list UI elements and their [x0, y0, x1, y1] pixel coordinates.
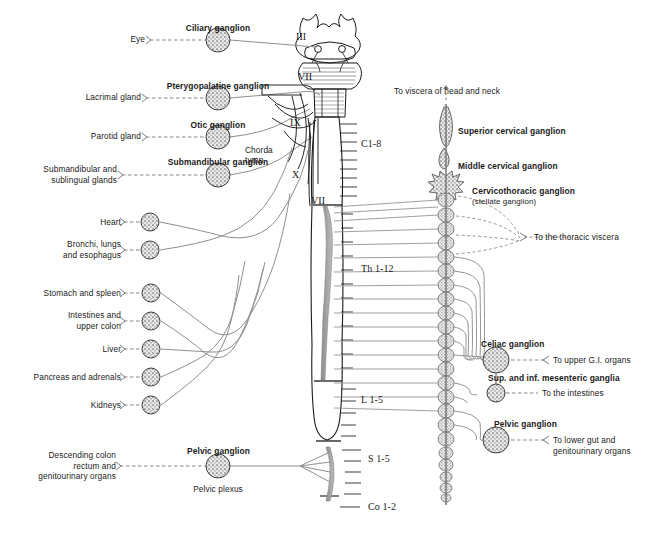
- celiac-ganglion-circle: [483, 347, 509, 373]
- target-leader-dashes: [120, 40, 206, 466]
- cranial-nerve-vii-lower-numeral: VII: [311, 196, 325, 207]
- cranial-nerve-x-numeral: X: [292, 170, 299, 181]
- chorda-tympani-label-line1: Chorda: [245, 145, 273, 156]
- kidneys-label: Kidneys: [52, 400, 121, 411]
- mesenteric-ganglia-circle: [487, 384, 505, 402]
- to-lower-gut-genitourinary-label: To lower gut and genitourinary organs: [553, 435, 631, 456]
- middle-cervical-ganglion-label: Middle cervical ganglion: [458, 161, 558, 172]
- otic-ganglion-label: Otic ganglion: [158, 120, 278, 131]
- pterygopalatine-ganglion-label: Pterygopalatine ganglion: [130, 81, 306, 92]
- pelvic-ganglion-label: Pelvic ganglion: [160, 446, 277, 457]
- segment-label-coccygeal: Co 1-2: [368, 502, 396, 513]
- midbrain-outline: [305, 42, 356, 63]
- vagus-nerve-fibers: [160, 148, 308, 405]
- segment-label-lumbar: L 1-5: [361, 395, 383, 406]
- cranial-parasympathetic-fibers: [230, 40, 320, 175]
- pelvic-parasympathetic-fibers: [230, 452, 330, 482]
- parasympathetic-ganglion-circles: [206, 28, 230, 478]
- intermediolateral-columns: [321, 206, 334, 501]
- sacral-gray-column: [326, 447, 334, 501]
- sympathetic-pelvic-ganglion-label: Pelvic ganglion: [494, 419, 557, 430]
- sympathetic-pelvic-ganglion-circle: [483, 427, 509, 453]
- chorda-tympani-label-line2: tymp.: [245, 155, 266, 166]
- celiac-ganglion-label: Celiac ganglion: [481, 339, 544, 350]
- cranial-nerve-ix-numeral: IX: [290, 118, 301, 129]
- pelvic-plexus-label: Pelvic plexus: [168, 484, 268, 495]
- white-rami-connections: [334, 200, 438, 411]
- kidneys-circle: [142, 396, 160, 414]
- intestines-upper-colon-label: Intestines and upper colon: [30, 310, 121, 331]
- autonomic-nervous-system-diagram: Ciliary ganglion Eye Pterygopalatine gan…: [0, 0, 662, 537]
- stomach-circle: [142, 284, 160, 302]
- segment-label-sacral: S 1-5: [368, 454, 390, 465]
- edinger-westphal-nucleus-right: [339, 46, 346, 53]
- to-upper-gi-organs-label: To upper G.I. organs: [553, 355, 631, 366]
- to-thoracic-viscera-label: To the thoracic viscera: [534, 232, 619, 243]
- liver-circle: [142, 340, 160, 358]
- pancreas-adrenals-label: Pancreas and adrenals: [14, 372, 121, 383]
- brainstem-group: [296, 14, 362, 117]
- ciliary-ganglion-label: Ciliary ganglion: [148, 23, 288, 34]
- descending-colon-rectum-genitourinary-label: Descending colon rectum and genitourinar…: [10, 450, 116, 482]
- pancreas-circle: [142, 368, 160, 386]
- heart-circle: [141, 213, 159, 231]
- submandibular-sublingual-glands-label: Submandibular and sublingual glands: [22, 164, 117, 185]
- segment-label-cervical: C1-8: [361, 139, 381, 150]
- sympathetic-chain: [428, 85, 464, 505]
- cranial-nerve-iii-numeral: III: [296, 32, 306, 43]
- intestines-circle: [142, 312, 160, 330]
- parotid-gland-label: Parotid gland: [44, 131, 141, 142]
- thoracolumbar-gray-column: [321, 206, 332, 380]
- eye-label: Eye: [60, 34, 145, 45]
- superior-cervical-ganglion-label: Superior cervical ganglion: [458, 126, 566, 137]
- to-viscera-head-neck-label: To viscera of head and neck: [394, 86, 500, 97]
- middle-cervical-ganglion: [439, 148, 449, 169]
- to-the-intestines-label: To the intestines: [542, 388, 604, 399]
- submandibular-ganglion-label: Submandibular ganglion: [128, 157, 308, 168]
- pelvic-ganglion-circle: [206, 454, 230, 478]
- bronchi-circle: [141, 241, 159, 259]
- prevertebral-arrows: [543, 356, 549, 444]
- chorda-tympani-fiber: [230, 137, 312, 175]
- stomach-spleen-label: Stomach and spleen: [16, 288, 121, 299]
- stellate-ganglion-sublabel: (stellate ganglion): [472, 197, 536, 208]
- lacrimal-gland-label: Lacrimal gland: [40, 92, 141, 103]
- segment-label-thoracic: Th 1-12: [361, 264, 394, 275]
- cervicothoracic-ganglion-label: Cervicothoracic ganglion: [472, 186, 575, 197]
- cranial-nerve-vii-numeral: VII: [298, 72, 312, 83]
- prevertebral-ganglia: [483, 347, 509, 453]
- mesenteric-ganglia-label: Sup. and inf. mesenteric ganglia: [488, 373, 620, 384]
- heart-label: Heart: [55, 217, 121, 228]
- vagal-target-circles: [141, 213, 160, 414]
- bronchi-lungs-esophagus-label: Bronchi, lungs and esophagus: [28, 239, 121, 260]
- medulla-striations: [315, 93, 344, 113]
- liver-label: Liver: [60, 344, 121, 355]
